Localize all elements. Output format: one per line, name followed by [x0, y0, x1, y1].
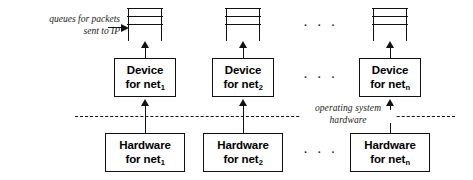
ellipsis-hardware-row: · · ·: [303, 145, 338, 160]
hardware-label-line1-net2: Hardware: [217, 138, 269, 152]
boundary-label-line1: operating system: [315, 103, 381, 113]
queue-rung-mid: [127, 16, 163, 17]
device-to-queue-arrowhead-net1: [141, 41, 149, 48]
queue-rung-bottom: [127, 24, 163, 25]
device-label-line1-net1: Device: [127, 63, 163, 77]
device-box-netn[interactable]: Device for netn: [359, 58, 421, 97]
queue-annotation-line1: queues for packets: [49, 14, 120, 24]
boundary-label-line2: hardware: [329, 115, 366, 125]
queue-rung-bottom: [372, 24, 408, 25]
queue-rung-mid: [225, 16, 261, 17]
packet-queue-net1: [128, 8, 162, 41]
hardware-box-net2[interactable]: Hardware for net2: [203, 133, 283, 172]
network-device-layering-diagram: queues for packets sent to IP Device for…: [0, 0, 473, 180]
device-label-line2-net1: for net1: [125, 77, 164, 93]
queue-annotation-label: queues for packets sent to IP: [8, 14, 120, 37]
hardware-to-device-arrowhead-net1: [141, 99, 149, 106]
device-to-queue-arrowhead-net2: [239, 41, 247, 48]
hardware-to-device-line-net2: [243, 105, 244, 135]
packet-queue-net2: [226, 8, 260, 41]
queue-annotation-arrow-shaft: [108, 27, 122, 28]
queue-rung-top: [372, 8, 408, 9]
hardware-label-line1-netn: Hardware: [364, 138, 416, 152]
ellipsis-device-row: · · ·: [303, 70, 338, 85]
device-to-queue-arrowhead-netn: [386, 41, 394, 48]
hardware-box-net1[interactable]: Hardware for net1: [105, 133, 185, 172]
hardware-label-line1-net1: Hardware: [119, 138, 171, 152]
hardware-label-line2-net2: for net2: [223, 152, 262, 168]
device-label-line1-netn: Device: [372, 63, 408, 77]
hardware-label-line2-net1: for net1: [125, 152, 164, 168]
device-label-line1-net2: Device: [225, 63, 261, 77]
queue-rung-top: [127, 8, 163, 9]
os-hardware-boundary-label: operating system hardware: [296, 103, 400, 126]
device-label-line2-netn: for netn: [370, 77, 410, 93]
hardware-to-device-arrowhead-net2: [239, 99, 247, 106]
queue-rung-top: [225, 8, 261, 9]
device-box-net1[interactable]: Device for net1: [114, 58, 176, 97]
hardware-label-line2-netn: for netn: [370, 152, 410, 168]
packet-queue-netn: [373, 8, 407, 41]
hardware-to-device-line-net1: [145, 105, 146, 135]
device-label-line2-net2: for net2: [223, 77, 262, 93]
hardware-box-netn[interactable]: Hardware for netn: [350, 133, 430, 172]
device-box-net2[interactable]: Device for net2: [212, 58, 274, 97]
queue-rung-bottom: [225, 24, 261, 25]
ellipsis-queue-row: · · ·: [303, 18, 338, 33]
queue-rung-mid: [372, 16, 408, 17]
